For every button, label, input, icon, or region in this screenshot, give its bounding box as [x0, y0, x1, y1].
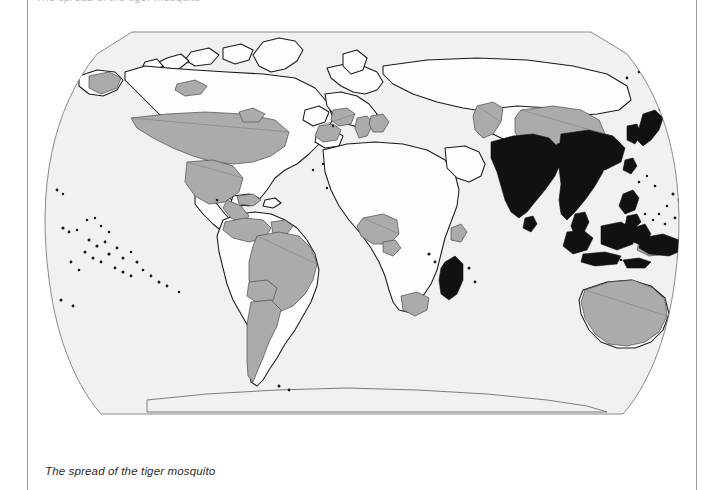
world-map-svg	[27, 14, 696, 439]
document-page: The spread of the tiger mosquito	[0, 0, 718, 490]
figure-caption: The spread of the tiger mosquito	[45, 465, 215, 477]
world-map-figure	[27, 14, 696, 439]
clipped-top-caption: The spread of the tiger mosquito	[36, 0, 366, 3]
page-rule-right	[696, 0, 697, 490]
